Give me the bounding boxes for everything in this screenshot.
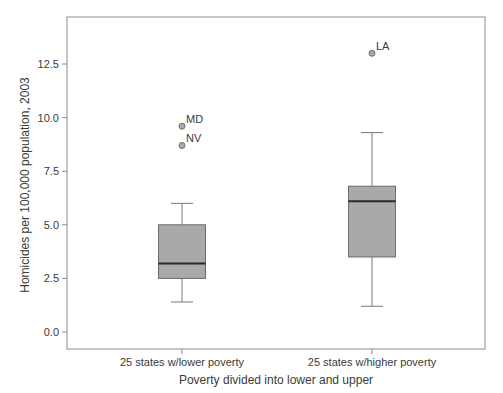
y-tick-label: 0.0	[44, 326, 59, 338]
x-tick-label: 25 states w/lower poverty	[120, 356, 245, 368]
plot-frame	[67, 17, 485, 349]
y-tick-label: 7.5	[44, 165, 59, 177]
y-tick-label: 12.5	[38, 58, 59, 70]
box-series: MDNVLA	[159, 40, 396, 306]
box-plot-chart: 0.02.55.07.510.012.5 25 states w/lower p…	[0, 0, 503, 393]
y-axis: 0.02.55.07.510.012.5	[38, 58, 67, 338]
outlier-label: MD	[186, 113, 203, 125]
outlier-label: NV	[186, 132, 202, 144]
outlier-point	[179, 123, 185, 129]
box-group: LA	[349, 40, 396, 306]
y-tick-label: 2.5	[44, 272, 59, 284]
y-tick-label: 10.0	[38, 112, 59, 124]
iqr-box	[349, 186, 396, 257]
iqr-box	[159, 225, 206, 279]
x-axis: 25 states w/lower poverty25 states w/hig…	[120, 349, 437, 368]
box-group: MDNV	[159, 113, 206, 302]
outlier-point	[179, 142, 185, 148]
outlier-label: LA	[376, 40, 390, 52]
outlier-point	[369, 50, 375, 56]
x-axis-title: Poverty divided into lower and upper	[179, 373, 373, 387]
x-tick-label: 25 states w/higher poverty	[308, 356, 437, 368]
y-axis-title: Homicides per 100,000 population, 2003	[18, 77, 32, 293]
y-tick-label: 5.0	[44, 219, 59, 231]
